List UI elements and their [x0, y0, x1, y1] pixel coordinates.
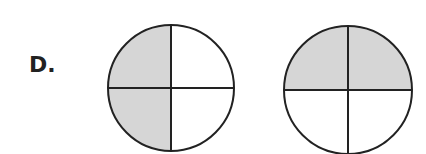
circle-left-half-shaded [100, 20, 234, 154]
circle-top-half-shaded [280, 20, 420, 154]
fraction-circles [0, 0, 426, 154]
